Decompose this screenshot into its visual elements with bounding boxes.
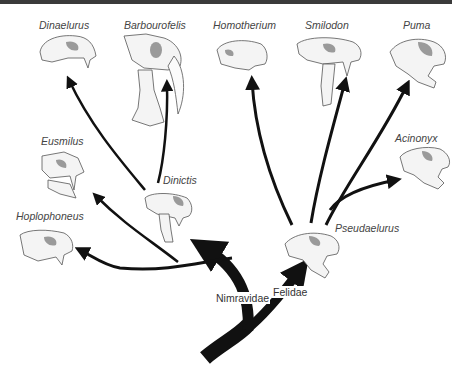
label-smilodon: Smilodon	[305, 19, 349, 31]
skull-dinaelurus	[40, 36, 96, 68]
label-pseudaelurus: Pseudaelurus	[335, 222, 399, 234]
skull-dinictis	[145, 194, 192, 243]
label-dinictis: Dinictis	[163, 174, 197, 186]
label-nimravidae: Nimravidae	[215, 292, 270, 304]
label-eusmilus: Eusmilus	[41, 135, 84, 147]
skull-barbourofelis	[124, 34, 184, 126]
skull-homotherium	[217, 41, 267, 70]
phylogeny-diagram	[0, 0, 460, 380]
label-homotherium: Homotherium	[213, 19, 276, 31]
label-barbourofelis: Barbourofelis	[124, 19, 186, 31]
skull-eusmilus	[42, 152, 84, 198]
skull-hoplophoneus	[20, 230, 73, 265]
edge-root	[205, 325, 248, 358]
edge-dinictis-barbourofelis	[158, 84, 167, 183]
label-puma: Puma	[403, 19, 430, 31]
skull-puma	[390, 39, 446, 88]
edge-pseudaelurus-acinonyx	[330, 180, 396, 210]
label-dinaelurus: Dinaelurus	[39, 19, 89, 31]
label-hoplophoneus: Hoplophoneus	[16, 210, 84, 222]
label-felidae: Felidae	[272, 286, 308, 298]
skull-smilodon	[297, 38, 361, 106]
skull-acinonyx	[400, 147, 450, 189]
skull-pseudaelurus	[285, 233, 339, 278]
edge-pseudaelurus-homotherium	[252, 81, 292, 225]
label-acinonyx: Acinonyx	[395, 132, 438, 144]
